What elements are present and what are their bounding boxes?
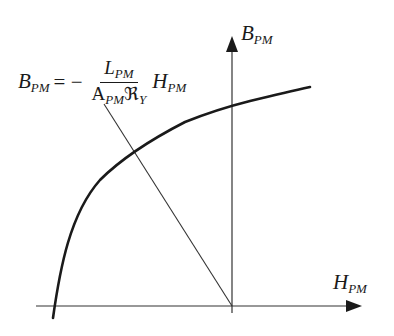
numerator-sub: PM bbox=[115, 66, 134, 81]
equation-rhs-main: H bbox=[152, 69, 167, 93]
equation-denominator: APMℜY bbox=[88, 83, 151, 107]
denominator-sub: PM bbox=[105, 92, 124, 107]
equation-lhs-main: B bbox=[18, 69, 31, 93]
h-axis-label-sub: PM bbox=[348, 281, 367, 296]
reluctance-sub: Y bbox=[139, 92, 146, 107]
numerator-main: L bbox=[104, 57, 115, 78]
denominator-main: A bbox=[92, 83, 106, 104]
b-axis-arrow-icon bbox=[226, 36, 238, 52]
equation-rhs: HPM bbox=[152, 69, 186, 96]
demagnetization-curve bbox=[53, 87, 310, 318]
h-axis-label: HPM bbox=[333, 272, 367, 295]
equation-rhs-sub: PM bbox=[167, 80, 186, 95]
equation-fraction: LPM APMℜY bbox=[88, 58, 151, 108]
b-axis-label-main: B bbox=[241, 21, 254, 45]
b-axis-label-sub: PM bbox=[254, 32, 273, 47]
equation-operator: = − bbox=[54, 70, 83, 95]
equation-lhs: BPM bbox=[18, 69, 50, 96]
h-axis-arrow-icon bbox=[346, 300, 362, 312]
b-axis-label: BPM bbox=[241, 23, 273, 46]
h-axis-label-main: H bbox=[333, 270, 348, 294]
equation-numerator: LPM bbox=[100, 58, 137, 83]
load-line-equation: BPM = − LPM APMℜY HPM bbox=[18, 58, 186, 108]
load-line bbox=[104, 104, 232, 306]
reluctance-symbol: ℜ bbox=[124, 83, 139, 104]
equation-lhs-sub: PM bbox=[31, 80, 50, 95]
